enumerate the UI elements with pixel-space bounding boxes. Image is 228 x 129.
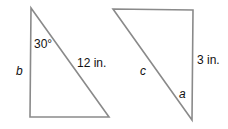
angle-label-a: a [179,87,186,101]
angle-label-30: 30° [34,37,52,51]
triangle-right [113,9,193,120]
side-label-b: b [16,64,23,78]
side-label-3in: 3 in. [197,53,220,67]
hypotenuse-label-c: c [140,64,146,78]
hypotenuse-label-12in: 12 in. [77,56,106,70]
diagram-canvas: 30° b 12 in. c 3 in. a [0,0,228,129]
